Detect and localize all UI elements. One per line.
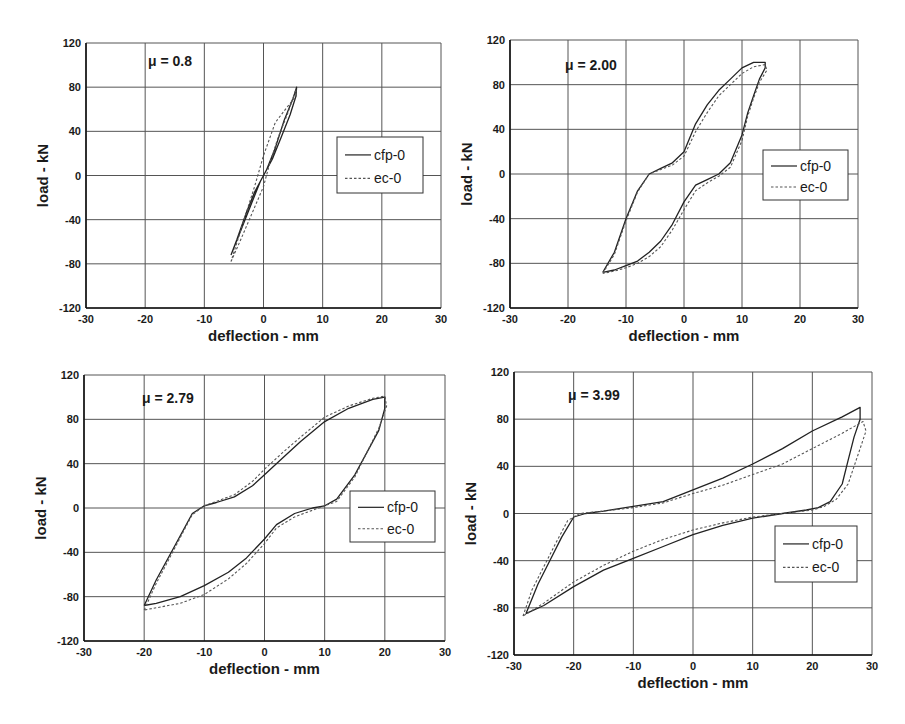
x-axis-title: deflection - mm [638,674,749,691]
legend: cfp-0ec-0 [337,137,423,193]
x-tick-label: 10 [319,646,331,658]
legend-label-cfp-0: cfp-0 [387,499,418,515]
x-tick-label: 10 [747,660,759,672]
x-tick-label: 0 [681,313,687,325]
y-tick-label: 0 [503,508,509,520]
x-tick-label: -10 [196,313,212,325]
legend: cfp-0ec-0 [763,150,848,200]
y-tick-label: 0 [499,168,505,180]
y-tick-label: -40 [63,546,79,558]
x-tick-label: -30 [76,646,92,658]
x-axis-title: deflection - mm [208,327,319,344]
y-tick-label: -80 [63,591,79,603]
x-tick-label: 20 [794,313,806,325]
x-tick-label: -10 [625,660,641,672]
y-tick-label: -80 [493,602,509,614]
y-tick-label: -40 [65,214,81,226]
y-tick-label: 120 [61,369,79,381]
ductility-annotation: μ = 0.8 [148,53,192,69]
legend-label-cfp-0: cfp-0 [800,158,831,174]
x-tick-label: -10 [618,313,634,325]
legend-label-ec-0: ec-0 [812,559,839,575]
x-tick-label: -20 [560,313,576,325]
y-tick-label: -80 [489,257,505,269]
legend-label-cfp-0: cfp-0 [812,536,843,552]
chart-3: -30-20-100102030-120-80-4004080120deflec… [32,369,451,677]
x-tick-label: -10 [196,646,212,658]
y-tick-label: 40 [69,125,81,137]
legend-label-ec-0: ec-0 [800,179,827,195]
chart-1: -30-20-100102030-120-80-4004080120deflec… [34,37,447,344]
y-tick-label: -120 [59,302,81,314]
ductility-annotation: μ = 2.79 [142,390,194,406]
y-axis-title: load - kN [462,482,479,545]
legend-label-cfp-0: cfp-0 [374,147,405,163]
y-tick-label: 0 [73,502,79,514]
x-tick-label: 0 [261,646,267,658]
x-tick-label: 30 [439,646,451,658]
y-tick-label: 40 [493,123,505,135]
y-tick-label: 40 [497,460,509,472]
y-tick-label: 120 [491,366,509,378]
legend-label-ec-0: ec-0 [387,521,414,537]
chart-2: -30-20-100102030-120-80-4004080120deflec… [458,34,864,344]
y-tick-label: 80 [497,413,509,425]
y-tick-label: 80 [69,81,81,93]
x-tick-label: 30 [852,313,864,325]
x-tick-label: -20 [566,660,582,672]
chart-4: -30-20-100102030-120-80-4004080120deflec… [462,366,878,691]
legend: cfp-0ec-0 [350,491,435,542]
x-tick-label: 20 [379,646,391,658]
x-tick-label: 20 [806,660,818,672]
y-tick-label: -120 [57,635,79,647]
x-tick-label: 20 [376,313,388,325]
x-tick-label: 10 [317,313,329,325]
y-axis-title: load - kN [458,142,475,205]
y-tick-label: -120 [487,649,509,661]
x-tick-label: 0 [260,313,266,325]
x-tick-label: 30 [435,313,447,325]
y-tick-label: 80 [493,79,505,91]
y-tick-label: -80 [65,258,81,270]
y-tick-label: 0 [75,170,81,182]
x-tick-label: -30 [506,660,522,672]
x-tick-label: 10 [736,313,748,325]
x-axis-title: deflection - mm [629,327,740,344]
x-tick-label: -20 [136,646,152,658]
x-tick-label: 30 [866,660,878,672]
y-tick-label: -40 [493,555,509,567]
y-tick-label: -40 [489,213,505,225]
x-tick-label: -30 [78,313,94,325]
gridlines [514,372,872,655]
y-tick-label: 40 [67,458,79,470]
x-axis-title: deflection - mm [209,660,320,677]
y-tick-label: 120 [487,34,505,46]
y-axis-title: load - kN [32,476,49,539]
y-tick-label: 120 [63,37,81,49]
y-axis-title: load - kN [34,144,51,207]
y-tick-label: -120 [483,302,505,314]
ductility-annotation: μ = 2.00 [565,57,617,73]
legend-label-ec-0: ec-0 [374,170,401,186]
x-tick-label: -30 [502,313,518,325]
legend: cfp-0ec-0 [775,526,857,582]
y-tick-label: 80 [67,413,79,425]
x-tick-label: -20 [137,313,153,325]
x-tick-label: 0 [690,660,696,672]
ductility-annotation: μ = 3.99 [568,387,620,403]
